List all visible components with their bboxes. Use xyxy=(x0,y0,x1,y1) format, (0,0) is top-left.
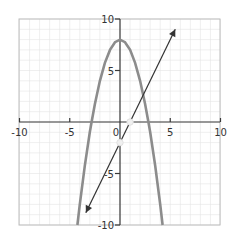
y-tick-label: 10 xyxy=(101,14,114,25)
y-tick-label: -10 xyxy=(98,220,114,231)
x-tick-label: -5 xyxy=(65,127,75,138)
x-tick-label: -10 xyxy=(11,127,27,138)
y-tick-label: 5 xyxy=(108,66,114,77)
point-marker xyxy=(127,119,133,125)
point-marker xyxy=(117,139,123,145)
x-tick-label: 0 xyxy=(113,127,119,138)
y-tick-label: -5 xyxy=(104,169,114,180)
x-tick-label: 10 xyxy=(214,127,227,138)
x-tick-label: 5 xyxy=(167,127,173,138)
function-graph: -10-50510-10-5510 xyxy=(0,0,239,240)
